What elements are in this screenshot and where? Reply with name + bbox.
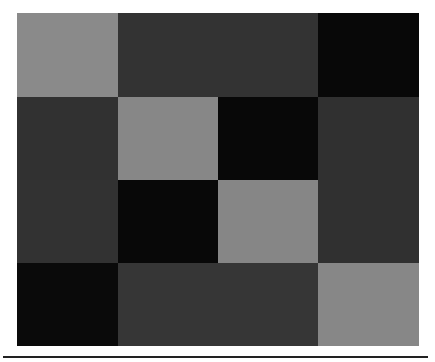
heatmap-cell-r3-c1 <box>118 263 218 346</box>
bottom-rule <box>3 356 428 358</box>
heatmap-cell-r2-c0 <box>17 180 118 263</box>
heatmap-cell-r1-c0 <box>17 97 118 180</box>
heatmap-cell-r0-c1 <box>118 13 218 97</box>
heatmap-cell-r3-c3 <box>318 263 419 346</box>
heatmap-grid <box>17 13 419 346</box>
heatmap-cell-r1-c1 <box>118 97 218 180</box>
heatmap-cell-r0-c3 <box>318 13 419 97</box>
heatmap-cell-r0-c0 <box>17 13 118 97</box>
heatmap-cell-r2-c2 <box>218 180 318 263</box>
heatmap-cell-r3-c0 <box>17 263 118 346</box>
heatmap-cell-r3-c2 <box>218 263 318 346</box>
heatmap-cell-r2-c1 <box>118 180 218 263</box>
heatmap-cell-r1-c3 <box>318 97 419 180</box>
heatmap-cell-r1-c2 <box>218 97 318 180</box>
heatmap-cell-r0-c2 <box>218 13 318 97</box>
heatmap-cell-r2-c3 <box>318 180 419 263</box>
